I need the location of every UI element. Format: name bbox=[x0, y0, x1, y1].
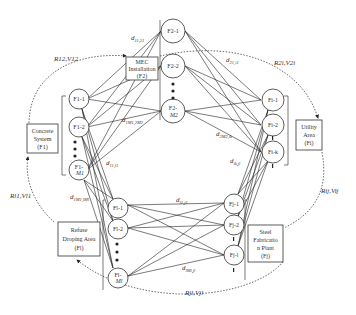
mec-box-line1: MEC bbox=[135, 59, 148, 65]
concrete-box-line1: Concrete bbox=[32, 128, 54, 134]
node-fl-2-label: Fl-2 bbox=[113, 226, 123, 232]
node-fl-1-label: Fl-1 bbox=[113, 205, 123, 211]
refuse-box-line3: (Fl) bbox=[75, 245, 84, 252]
utility-box-line2: Area bbox=[303, 132, 315, 138]
node-fi-k-label: Fi-k bbox=[268, 149, 278, 155]
label-d-l1-j1: dl1,j1 bbox=[176, 196, 188, 206]
label-rij-vij: Rij,Vij bbox=[320, 187, 339, 195]
concrete-box-line2: System bbox=[34, 136, 52, 142]
steel-box-line3: n Plant bbox=[257, 245, 274, 251]
label-d-1m1-lml: d1M1,lMl bbox=[70, 193, 90, 203]
node-fl-ml-label2: Ml bbox=[115, 278, 123, 284]
label-r2i-v2i: R2i,V2i bbox=[273, 59, 295, 67]
label-rl1-vl1: Rl1,Vl1 bbox=[9, 192, 31, 200]
node-f2-m2-label2: M2 bbox=[169, 112, 178, 118]
label-d-ik-jl: dik,jl bbox=[230, 157, 241, 167]
node-f2-m2 bbox=[161, 99, 185, 123]
mec-box-line3: (F2) bbox=[137, 73, 147, 80]
concrete-box-line3: (F1) bbox=[37, 144, 47, 151]
node-fj-l-label: Fj-l bbox=[230, 252, 239, 258]
facility-network-diagram: Concrete System (F1) MEC Installation (F… bbox=[0, 0, 356, 315]
label-d-1m1-2m2: d1M1,2M2 bbox=[122, 116, 144, 126]
refuse-box-line1: Refuse bbox=[71, 227, 88, 233]
node-f1-2-label: F1-2 bbox=[73, 124, 84, 130]
label-r12-v12: R12,V12 bbox=[53, 55, 79, 63]
utility-box-line3: (Fi) bbox=[305, 140, 314, 147]
node-fi-2-label: Fi-2 bbox=[268, 122, 278, 128]
label-d-2m2-ik: d2M2,ik bbox=[216, 130, 233, 140]
node-fi-1-label: Fi-1 bbox=[268, 97, 278, 103]
utility-box-line1: Utility bbox=[301, 124, 317, 130]
node-f2-1-label: F2-1 bbox=[167, 28, 178, 34]
steel-box-line2: Fabricatio bbox=[253, 237, 277, 243]
label-d-11-21: d11,21 bbox=[131, 34, 144, 44]
steel-box-line4: (Fj) bbox=[261, 253, 270, 260]
label-rjl-vjl: Rjl,Vjl bbox=[184, 289, 203, 297]
steel-box-line1: Steel bbox=[260, 229, 272, 235]
refuse-box-line2: Droping Area bbox=[63, 236, 96, 242]
label-d-21-i1: d21,i1 bbox=[226, 56, 239, 66]
node-f1-m1-label2: M1 bbox=[75, 170, 84, 176]
node-fj-2-label: Fj-2 bbox=[229, 222, 239, 228]
node-fj-1-label: Fj-1 bbox=[229, 201, 239, 207]
mec-box-line2: Installation bbox=[129, 66, 156, 72]
arc-fi-to-fj bbox=[284, 152, 324, 228]
node-f2-2-label: F2-2 bbox=[167, 63, 178, 69]
node-f2-m2-label: F2- bbox=[169, 105, 177, 111]
node-f1-1-label: F1-1 bbox=[73, 96, 84, 102]
label-d-lml-jl: dlMl,jl bbox=[182, 264, 196, 274]
arc-fl-to-f1 bbox=[27, 157, 54, 222]
label-d-11-l1: d11,l1 bbox=[106, 159, 118, 169]
